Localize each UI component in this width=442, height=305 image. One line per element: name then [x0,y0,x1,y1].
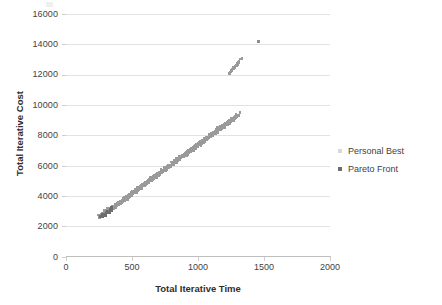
data-point-personal-best [131,195,133,197]
data-point-personal-best [195,148,197,150]
data-point-personal-best [231,70,233,72]
gridline-8000 [66,135,330,136]
data-point-personal-best [136,192,138,194]
x-axis-title: Total Iterative Time [66,283,330,294]
x-tick-mark [66,257,67,261]
x-tick-mark [132,257,133,261]
data-point-personal-best [183,156,185,158]
x-tick-label-0: 0 [36,262,96,272]
gridline-2000 [66,226,330,227]
scatter-chart: Total Iterative Cost 16000 14000 12000 1… [0,0,442,305]
gridline-14000 [66,44,330,45]
y-tick-label-4000: 4000 [0,191,58,201]
data-point-personal-best [122,201,124,203]
data-point-personal-best [159,174,161,176]
data-point-personal-best [203,142,205,144]
data-point-personal-best [233,67,235,69]
y-tick-label-16000: 16000 [0,9,58,19]
x-tick-mark [330,257,331,261]
top-edge-artifact [46,2,53,7]
data-point-personal-best [142,185,144,187]
data-point-personal-best [162,171,164,173]
x-tick-mark [198,257,199,261]
gridline-10000 [66,105,330,106]
data-point-personal-best [238,114,240,116]
data-point-personal-best [212,134,214,136]
data-point-personal-best [233,120,235,122]
legend-label-personal-best: Personal Best [348,142,404,160]
y-tick-label-6000: 6000 [0,161,58,171]
x-tick-mark [264,257,265,261]
gridline-4000 [66,196,330,197]
gridline-6000 [66,166,330,167]
data-point-personal-best [126,197,128,199]
data-point-personal-best [226,123,228,125]
data-point-personal-best [228,73,230,75]
y-tick-label-2000: 2000 [0,221,58,231]
data-point-pareto-front [110,206,113,209]
data-point-personal-best [138,189,140,191]
data-point-personal-best [188,152,190,154]
data-point-personal-best [216,132,218,134]
data-point-personal-best [229,123,231,125]
legend-item-personal-best[interactable]: Personal Best [338,142,438,160]
data-point-personal-best [146,182,148,184]
y-tick-label-10000: 10000 [0,100,58,110]
x-tick-label-2000: 2000 [300,262,360,272]
legend-marker-personal-best [338,149,342,153]
x-tick-label-1000: 1000 [168,262,228,272]
legend-marker-pareto-front [338,167,342,171]
data-point-personal-best [166,169,168,171]
gridline-12000 [66,75,330,76]
data-point-personal-best [141,188,143,190]
data-point-personal-best [236,62,238,64]
data-point-personal-best [197,146,199,148]
data-point-personal-best [236,116,238,118]
chart-legend: Personal Best Pareto Front [338,142,438,178]
data-point-personal-best [99,217,101,219]
legend-label-pareto-front: Pareto Front [348,160,398,178]
data-point-outlier [257,40,260,43]
data-point-personal-best [156,177,158,179]
data-point-personal-best [187,154,189,156]
y-tick-label-0: 0 [0,252,58,262]
y-tick-label-8000: 8000 [0,130,58,140]
data-point-personal-best [169,166,171,168]
y-tick-label-14000: 14000 [0,39,58,49]
y-tick-label-12000: 12000 [0,69,58,79]
gridline-16000 [66,14,330,15]
x-tick-label-1500: 1500 [234,262,294,272]
legend-item-pareto-front[interactable]: Pareto Front [338,160,438,178]
plot-area [66,14,330,257]
data-point-personal-best [220,128,222,130]
data-point-personal-best [115,207,117,209]
data-point-personal-best [152,179,154,181]
x-tick-label-500: 500 [102,262,162,272]
data-point-personal-best [224,127,226,129]
